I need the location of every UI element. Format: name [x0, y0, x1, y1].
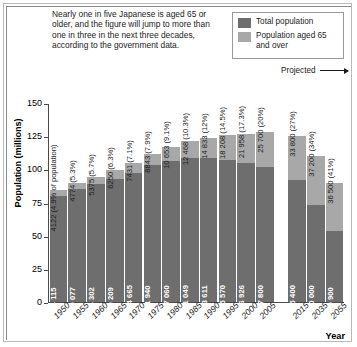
y-tick-mark — [44, 204, 48, 205]
projected-annotation: Projected — [281, 66, 348, 75]
plot-area: 0255075100125150 84 1154122 (4.9% of pop… — [48, 104, 344, 303]
x-tick-slot: 2015 — [288, 305, 307, 345]
x-tick-slot: 1995 — [218, 305, 237, 345]
bar-column: 111 9408843 (7.9%) — [144, 154, 162, 303]
bar-column: 126 92621 958 (17.3%) — [237, 134, 255, 302]
y-tick-label: 25 — [2, 265, 42, 273]
legend-swatch-population-65-over — [238, 32, 251, 42]
bar-2005[interactable]: 127 80025 700 (20%) — [256, 104, 275, 302]
x-tick-slot: 1950 — [49, 305, 68, 345]
bar-65-over-label: 33 800 (27%) — [288, 111, 297, 157]
x-tick-slot: 1990 — [199, 305, 218, 345]
x-tick-slot: 2035 — [307, 305, 326, 345]
bar-65-over-label: 18 208 (14.5%) — [218, 107, 227, 159]
projection-gap-tick — [274, 305, 288, 345]
bar-1980[interactable]: 117 06010 653 (9.1%) — [162, 104, 181, 302]
chart-caption: Nearly one in five Japanese is aged 65 o… — [52, 9, 224, 51]
y-tick-mark — [44, 270, 48, 271]
bar-2000[interactable]: 126 92621 958 (17.3%) — [237, 104, 256, 302]
bar-65-over-label: 25 700 (20%) — [256, 108, 265, 154]
y-tick-label: 100 — [2, 165, 42, 173]
bar-column: 125 57018 208 (14.5%) — [219, 135, 237, 302]
bar-65-over-label: 4774 (5.3%) — [68, 160, 77, 201]
x-tick-slot: 1960 — [86, 305, 105, 345]
bar-65-over-label: 37 200 (34%) — [307, 131, 316, 177]
legend-item-population-65-over: Population aged 65 and over — [238, 31, 338, 50]
y-tick-label: 50 — [2, 232, 42, 240]
bar-1965[interactable]: 99 2096250 (6.3%) — [105, 104, 124, 302]
x-tick-slot: 1970 — [124, 305, 143, 345]
x-tick-slot: 2005 — [255, 305, 274, 345]
bar-column: 94 3025375 (5.7%) — [87, 177, 105, 302]
bar-column: 123 61114 833 (12%) — [200, 138, 218, 302]
bar-65-over-label: 12 468 (10.3%) — [181, 113, 190, 165]
bar-2015[interactable]: 125 40033 800 (27%) — [288, 104, 307, 302]
x-tick-slot: 1980 — [161, 305, 180, 345]
projected-label: Projected — [281, 66, 316, 75]
projection-gap — [274, 104, 287, 302]
bar-1995[interactable]: 125 57018 208 (14.5%) — [218, 104, 237, 302]
legend-label-total-population: Total population — [256, 17, 313, 27]
y-axis-title: Population (millions) — [13, 88, 23, 238]
x-axis-tick-labels: 1950195519601965197019751980198519901995… — [49, 305, 344, 345]
chart-figure: Nearly one in five Japanese is aged 65 o… — [0, 0, 357, 347]
bar-65-over-label: 6250 (6.3%) — [106, 148, 115, 189]
x-tick-slot: 1985 — [180, 305, 199, 345]
bar-column: 99 2096250 (6.3%) — [106, 170, 124, 302]
bar-1985[interactable]: 121 04912 468 (10.3%) — [180, 104, 199, 302]
bar-1970[interactable]: 104 6657431 (7.1%) — [124, 104, 143, 302]
bar-2035[interactable]: 110 00037 200 (34%) — [306, 104, 325, 302]
x-tick-slot: 1955 — [68, 305, 87, 345]
bar-group: 84 1154122 (4.9% of population)90 077477… — [49, 104, 344, 302]
y-tick-mark — [44, 104, 48, 105]
bar-column: 127 80025 700 (20%) — [256, 132, 274, 302]
legend-item-total-population: Total population — [238, 17, 338, 28]
y-tick-mark — [44, 237, 48, 238]
bar-1975[interactable]: 111 9408843 (7.9%) — [143, 104, 162, 302]
bar-65-over-label: 8843 (7.9%) — [143, 131, 152, 172]
bar-column: 125 40033 800 (27%) — [288, 136, 306, 302]
bar-column: 117 06010 653 (9.1%) — [162, 147, 180, 302]
bar-1950[interactable]: 84 1154122 (4.9% of population) — [49, 104, 68, 302]
bar-1990[interactable]: 123 61114 833 (12%) — [199, 104, 218, 302]
bar-2055[interactable]: 89 90036 500 (41%) — [325, 104, 344, 302]
bar-65-over-label: 4122 (4.9% of population) — [49, 145, 58, 232]
bar-65-over-label: 7431 (7.1%) — [125, 140, 134, 181]
bar-65-over-label: 14 833 (12%) — [200, 113, 209, 159]
y-tick-label: 0 — [2, 298, 42, 306]
bar-1955[interactable]: 90 0774774 (5.3%) — [68, 104, 87, 302]
bar-1960[interactable]: 94 3025375 (5.7%) — [87, 104, 106, 302]
bar-column: 104 6657431 (7.1%) — [125, 163, 143, 302]
y-tick-mark — [44, 170, 48, 171]
bar-column: 110 00037 200 (34%) — [307, 156, 325, 302]
legend-swatch-total-population — [238, 18, 251, 28]
projected-arrow-icon — [320, 70, 348, 71]
y-tick-label: 75 — [2, 199, 42, 207]
legend-label-population-65-over: Population aged 65 and over — [256, 31, 338, 50]
y-tick-label: 125 — [2, 132, 42, 140]
bar-column: 121 04912 468 (10.3%) — [181, 141, 199, 302]
y-tick-mark — [44, 303, 48, 304]
bar-65-over-label: 36 500 (41%) — [326, 158, 335, 204]
x-tick-slot: 1975 — [143, 305, 162, 345]
x-tick-slot: 2000 — [236, 305, 255, 345]
chart-legend: Total population Population aged 65 and … — [232, 12, 344, 59]
y-tick-mark — [44, 137, 48, 138]
x-tick-slot: 2055 — [325, 305, 344, 345]
bar-column: 84 1154122 (4.9% of population) — [50, 190, 68, 302]
bar-column: 90 0774774 (5.3%) — [68, 183, 86, 303]
bar-65-over-label: 10 653 (9.1%) — [162, 121, 171, 169]
bar-65-over-label: 5375 (5.7%) — [87, 154, 96, 195]
x-tick-slot: 1965 — [105, 305, 124, 345]
bar-column: 89 90036 500 (41%) — [326, 183, 344, 302]
bar-65-over-label: 21 958 (17.3%) — [237, 106, 246, 158]
y-tick-label: 150 — [2, 99, 42, 107]
